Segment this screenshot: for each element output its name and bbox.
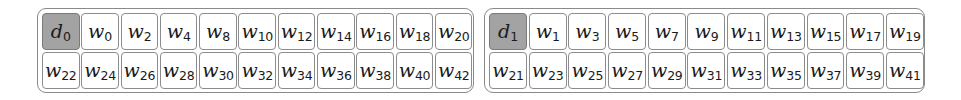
cell-subscript: 22 <box>61 68 76 83</box>
cell-subscript: 13 <box>786 29 801 44</box>
cell-symbol: w <box>241 61 257 80</box>
cell-symbol: w <box>849 22 865 41</box>
weight-cell: w30 <box>199 52 237 89</box>
cell-subscript: 32 <box>258 68 273 83</box>
device-panel-d1: d1 w1 w3 w5 w7 w9 w11 w13 w15 w17 w19 w2… <box>484 8 925 93</box>
cell-subscript: 1 <box>552 29 560 44</box>
weight-cell: w33 <box>727 52 765 89</box>
cell-subscript: 24 <box>101 68 116 83</box>
cell-subscript: 12 <box>297 29 312 44</box>
weight-cell: w39 <box>846 52 884 89</box>
cell-subscript: 42 <box>454 68 469 83</box>
weight-cell: w14 <box>317 13 355 50</box>
weight-cell: w10 <box>238 13 276 50</box>
cell-subscript: 39 <box>866 68 881 83</box>
weight-cell: w25 <box>568 52 606 89</box>
weight-cell: w9 <box>687 13 725 50</box>
weight-cell: w31 <box>687 52 725 89</box>
cell-symbol: w <box>281 61 297 80</box>
cell-subscript: 11 <box>747 29 762 44</box>
weight-cell: w35 <box>767 52 805 89</box>
cell-symbol: d <box>51 22 63 41</box>
weight-cell: w28 <box>160 52 198 89</box>
weight-cell: w32 <box>238 52 276 89</box>
weight-cell: w19 <box>886 13 924 50</box>
cell-symbol: w <box>359 61 375 80</box>
cell-subscript: 41 <box>905 68 920 83</box>
cell-symbol: w <box>611 61 627 80</box>
cell-symbol: w <box>730 61 746 80</box>
cell-subscript: 0 <box>63 29 71 44</box>
weight-cell: w34 <box>278 52 316 89</box>
cell-subscript: 1 <box>510 29 518 44</box>
cell-symbol: w <box>691 61 707 80</box>
cell-symbol: w <box>88 22 104 41</box>
cell-symbol: w <box>438 61 454 80</box>
weight-cell: w27 <box>608 52 646 89</box>
cell-subscript: 28 <box>179 68 194 83</box>
cell-symbol: w <box>655 22 671 41</box>
cell-symbol: w <box>124 61 140 80</box>
cell-subscript: 30 <box>218 68 233 83</box>
device-cell-d0: d0 <box>42 13 80 50</box>
weight-cell: w23 <box>529 52 567 89</box>
cell-subscript: 36 <box>336 68 351 83</box>
weight-cell: w24 <box>81 52 119 89</box>
weight-cell: w40 <box>396 52 434 89</box>
cell-subscript: 35 <box>786 68 801 83</box>
cell-subscript: 29 <box>667 68 682 83</box>
cell-symbol: w <box>572 61 588 80</box>
device-panel-d0: d0 w0 w2 w4 w8 w10 w12 w14 w16 w18 w20 w… <box>37 8 474 93</box>
weight-cell: w5 <box>608 13 646 50</box>
weight-cell: w18 <box>396 13 434 50</box>
cell-symbol: w <box>438 22 454 41</box>
cell-symbol: w <box>849 61 865 80</box>
weight-cell: w21 <box>489 52 527 89</box>
weight-cell: w1 <box>529 13 567 50</box>
cell-subscript: 23 <box>548 68 563 83</box>
cell-subscript: 34 <box>297 68 312 83</box>
cell-subscript: 40 <box>415 68 430 83</box>
weight-cell: w41 <box>886 52 924 89</box>
cell-subscript: 15 <box>826 29 841 44</box>
cell-symbol: w <box>163 61 179 80</box>
cell-subscript: 37 <box>826 68 841 83</box>
device-cell-d1: d1 <box>489 13 527 50</box>
cell-subscript: 27 <box>627 68 642 83</box>
cell-symbol: w <box>281 22 297 41</box>
cell-subscript: 10 <box>258 29 273 44</box>
cell-symbol: w <box>694 22 710 41</box>
cell-subscript: 20 <box>454 29 469 44</box>
cell-subscript: 9 <box>711 29 719 44</box>
weight-cell: w12 <box>278 13 316 50</box>
weight-cell: w0 <box>81 13 119 50</box>
weight-cell: w42 <box>435 52 473 89</box>
weight-cell: w4 <box>160 13 198 50</box>
cell-subscript: 7 <box>671 29 679 44</box>
cell-grid: d1 w1 w3 w5 w7 w9 w11 w13 w15 w17 w19 w2… <box>489 13 924 89</box>
cell-symbol: w <box>575 22 591 41</box>
cell-subscript: 4 <box>183 29 191 44</box>
cell-symbol: w <box>206 22 222 41</box>
cell-subscript: 38 <box>376 68 391 83</box>
cell-symbol: w <box>651 61 667 80</box>
cell-subscript: 18 <box>415 29 430 44</box>
cell-symbol: w <box>615 22 631 41</box>
cell-symbol: w <box>127 22 143 41</box>
cell-symbol: w <box>399 22 415 41</box>
cell-symbol: w <box>770 22 786 41</box>
weight-cell: w7 <box>648 13 686 50</box>
cell-subscript: 25 <box>588 68 603 83</box>
cell-symbol: w <box>889 22 905 41</box>
weight-cell: w38 <box>356 52 394 89</box>
weight-cell: w8 <box>199 13 237 50</box>
cell-subscript: 16 <box>376 29 391 44</box>
weight-cell: w37 <box>807 52 845 89</box>
weight-cell: w22 <box>42 52 80 89</box>
cell-symbol: w <box>45 61 61 80</box>
cell-symbol: w <box>241 22 257 41</box>
cell-subscript: 17 <box>866 29 881 44</box>
cell-subscript: 0 <box>104 29 112 44</box>
cell-symbol: w <box>810 61 826 80</box>
cell-symbol: w <box>167 22 183 41</box>
